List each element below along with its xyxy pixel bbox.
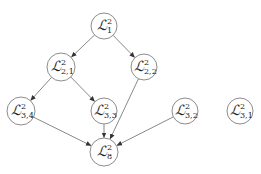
edge-L34-to-L8 [34,117,91,145]
node-L22: ℒ22,2 [131,54,157,80]
edge-L1-to-L21 [71,35,94,57]
edges-layer [31,35,174,146]
edge-L32-to-L8 [117,117,173,146]
node-L34: ℒ23,4 [7,97,35,125]
node-label: ℒ21 [97,17,112,35]
node-L8: ℒ28 [90,138,118,166]
node-L31: ℒ23,1 [227,98,253,124]
node-L32: ℒ23,2 [172,98,198,124]
node-label: ℒ28 [97,143,112,161]
edge-L1-to-L22 [113,35,134,57]
edge-L21-to-L34 [31,77,52,100]
node-L21: ℒ22,1 [47,53,75,81]
node-L1: ℒ21 [91,13,117,39]
nodes-layer: ℒ21ℒ22,1ℒ22,2ℒ23,4ℒ23,3ℒ23,2ℒ23,1ℒ28 [7,13,253,166]
edge-L21-to-L33 [71,77,95,101]
node-L33: ℒ23,3 [91,98,117,124]
dependency-graph: ℒ21ℒ22,1ℒ22,2ℒ23,4ℒ23,3ℒ23,2ℒ23,1ℒ28 [0,0,261,174]
